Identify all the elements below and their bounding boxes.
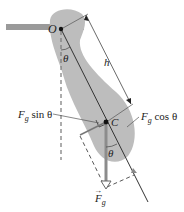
pendulum-diagram: O θ h C θ Fg sin θ Fg cos θ → Fg (0, 0, 184, 212)
cos-component-label: Fg cos θ (140, 110, 177, 125)
pivot-label: O (48, 22, 57, 36)
gravity-label: Fg (94, 192, 106, 207)
sin-component-label: Fg sin θ (17, 108, 52, 123)
pivot-point (59, 27, 63, 31)
center-of-mass-point (104, 120, 109, 125)
h-label: h (104, 56, 110, 68)
gravity-arrowhead (101, 181, 111, 189)
theta-bottom-label: θ (108, 147, 114, 159)
theta-top-label: θ (63, 52, 69, 64)
center-of-mass-label: C (111, 116, 119, 128)
